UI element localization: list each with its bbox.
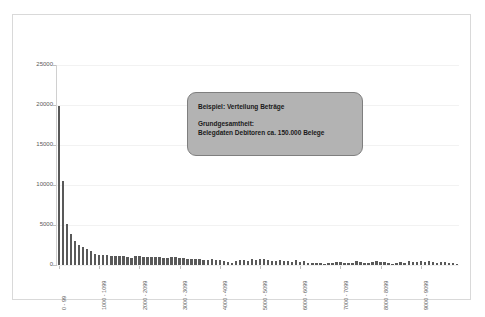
- bar: [271, 261, 273, 265]
- callout-subtitle: Grundgesamtheit:: [198, 119, 352, 128]
- bar: [383, 262, 385, 265]
- bar: [86, 249, 88, 265]
- bar: [295, 260, 297, 265]
- bar: [74, 241, 76, 265]
- bar: [78, 245, 80, 265]
- bar: [134, 256, 136, 265]
- slide-canvas: 0500010000150002000025000 0 - 991000 - 1…: [0, 0, 485, 317]
- bar: [412, 262, 414, 265]
- bar: [166, 258, 168, 265]
- x-tick-mark: [381, 266, 382, 269]
- x-tick-mark: [99, 266, 100, 269]
- y-tick-label: 15000: [36, 141, 53, 148]
- callout-box: Beispiel: Verteilung Beträge Grundgesamt…: [187, 92, 363, 156]
- bar: [351, 263, 353, 265]
- x-tick-mark: [260, 266, 261, 269]
- bar: [440, 262, 442, 265]
- callout-spacer: [198, 111, 352, 119]
- x-tick-mark: [340, 266, 341, 269]
- bar: [287, 261, 289, 265]
- bar: [150, 257, 152, 265]
- bar: [299, 262, 301, 265]
- bar: [102, 255, 104, 265]
- bar: [275, 261, 277, 265]
- y-tick-label: 10000: [36, 181, 53, 188]
- bar: [424, 262, 426, 265]
- x-tick-label: 5000 - 5099: [262, 281, 268, 310]
- bar: [267, 260, 269, 265]
- callout-detail: Belegdaten Debitoren ca. 150.000 Belege: [198, 128, 352, 137]
- bar: [198, 259, 200, 265]
- bar: [399, 262, 401, 265]
- bar: [194, 259, 196, 265]
- bar: [263, 259, 265, 265]
- bar: [408, 261, 410, 265]
- bar: [327, 263, 329, 265]
- chart-frame: 0500010000150002000025000 0 - 991000 - 1…: [12, 14, 471, 300]
- bar: [138, 256, 140, 265]
- x-tick-label: 6000 - 6099: [302, 281, 308, 310]
- bar: [343, 263, 345, 265]
- bar: [239, 260, 241, 265]
- bar: [142, 257, 144, 265]
- bar: [178, 258, 180, 265]
- bar: [255, 260, 257, 265]
- bar: [303, 261, 305, 265]
- bar: [379, 262, 381, 265]
- bar: [319, 263, 321, 265]
- x-tick-label: 3000 - 3099: [182, 281, 188, 310]
- bar: [395, 263, 397, 265]
- bar: [66, 224, 68, 265]
- bar: [146, 257, 148, 265]
- x-axis-labels: 0 - 991000 - 10992000 - 20993000 - 30994…: [57, 266, 459, 314]
- bar: [130, 258, 132, 265]
- bar: [347, 263, 349, 265]
- bar: [223, 261, 225, 265]
- bar: [243, 260, 245, 265]
- bar: [122, 256, 124, 265]
- bar: [62, 181, 64, 265]
- x-tick-mark: [300, 266, 301, 269]
- bar: [186, 259, 188, 265]
- bar: [371, 262, 373, 265]
- bar: [283, 261, 285, 265]
- bar: [432, 262, 434, 265]
- bar: [211, 259, 213, 265]
- x-tick-mark: [180, 266, 181, 269]
- x-tick-mark: [220, 266, 221, 269]
- x-tick-label: 4000 - 4099: [222, 281, 228, 310]
- bar: [355, 261, 357, 265]
- bar: [420, 261, 422, 265]
- bar: [279, 260, 281, 265]
- bar: [247, 261, 249, 265]
- gridline: [57, 65, 459, 66]
- bar: [391, 264, 393, 265]
- bar: [311, 263, 313, 265]
- bar: [227, 262, 229, 265]
- x-tick-label: 0 - 99: [61, 296, 67, 310]
- bar: [448, 263, 450, 265]
- bar: [307, 263, 309, 265]
- callout-title: Beispiel: Verteilung Beträge: [198, 102, 352, 111]
- bar: [90, 251, 92, 265]
- bar: [82, 247, 84, 265]
- bar: [331, 263, 333, 265]
- bar: [235, 261, 237, 265]
- bar: [367, 263, 369, 265]
- bar: [251, 259, 253, 265]
- bar: [323, 264, 325, 265]
- y-tick-label: 20000: [36, 101, 53, 108]
- bar: [190, 259, 192, 265]
- bar: [335, 262, 337, 265]
- bar: [126, 257, 128, 265]
- bar: [219, 260, 221, 265]
- x-tick-mark: [59, 266, 60, 269]
- x-tick-label: 7000 - 7099: [343, 281, 349, 310]
- gridline: [57, 225, 459, 226]
- bar: [70, 234, 72, 265]
- bar: [110, 256, 112, 265]
- bar: [315, 263, 317, 265]
- gridline: [57, 185, 459, 186]
- bar: [359, 262, 361, 265]
- bar: [456, 264, 458, 265]
